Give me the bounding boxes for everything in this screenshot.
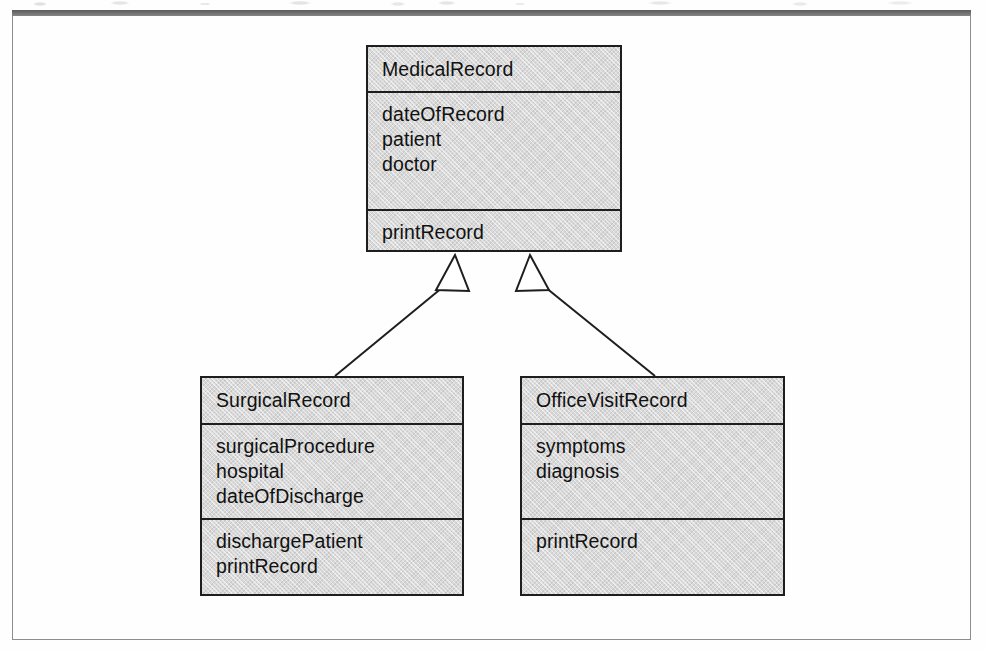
class-name-compartment: MedicalRecord — [368, 47, 620, 91]
class-attributes-compartment: surgicalProcedure hospital dateOfDischar… — [202, 423, 462, 518]
attribute-item: dateOfDischarge — [216, 484, 448, 509]
operation-item: printRecord — [382, 220, 606, 245]
class-name-label: MedicalRecord — [382, 57, 513, 81]
class-operations-compartment: dischargePatient printRecord — [202, 518, 462, 598]
uml-class-medical-record[interactable]: MedicalRecord dateOfRecord patient docto… — [366, 45, 622, 252]
attribute-item: dateOfRecord — [382, 102, 606, 127]
uml-class-surgical-record[interactable]: SurgicalRecord surgicalProcedure hospita… — [200, 376, 464, 596]
attribute-item: surgicalProcedure — [216, 434, 448, 459]
attribute-item: symptoms — [536, 434, 769, 459]
attribute-item: patient — [382, 127, 606, 152]
class-operations-compartment: printRecord — [522, 518, 783, 598]
class-operations-compartment: printRecord — [368, 209, 620, 254]
class-attributes-compartment: dateOfRecord patient doctor — [368, 91, 620, 209]
operation-item: dischargePatient — [216, 529, 448, 554]
uml-class-office-visit-record[interactable]: OfficeVisitRecord symptoms diagnosis pri… — [520, 376, 785, 596]
class-attributes-compartment: symptoms diagnosis — [522, 423, 783, 518]
scan-artifact-top-text — [0, 0, 986, 9]
operation-item: printRecord — [216, 554, 448, 579]
attribute-item: doctor — [382, 152, 606, 177]
class-name-compartment: SurgicalRecord — [202, 378, 462, 423]
class-name-compartment: OfficeVisitRecord — [522, 378, 783, 423]
class-name-label: OfficeVisitRecord — [536, 388, 688, 412]
attribute-item: diagnosis — [536, 459, 769, 484]
class-name-label: SurgicalRecord — [216, 388, 351, 412]
operation-item: printRecord — [536, 529, 769, 554]
attribute-item: hospital — [216, 459, 448, 484]
